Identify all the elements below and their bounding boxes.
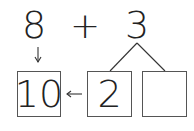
decomposition-part-2-box[interactable] — [142, 71, 187, 117]
split-line-right — [137, 43, 165, 71]
result-box: 10 — [17, 71, 61, 117]
decomposition-part-1-box: 2 — [87, 71, 132, 117]
split-line-left — [110, 43, 137, 71]
